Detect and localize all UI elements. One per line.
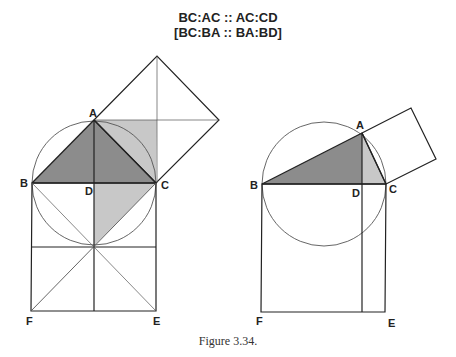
left-figure: A B C D E F [20,56,219,327]
left-label-b: B [20,177,28,189]
right-label-b: B [250,179,258,191]
left-label-a: A [89,107,97,119]
geometry-diagram: A B C D E F A B C D E F [0,0,456,357]
right-label-f: F [256,315,263,327]
right-label-d: D [352,187,360,199]
right-square-bcef [261,184,386,312]
right-label-c: C [389,183,397,195]
left-label-e: E [153,315,160,327]
left-label-d: D [85,185,93,197]
left-label-c: C [161,179,169,191]
figure-caption: Figure 3.34. [0,334,456,349]
right-figure: A B C D E F [250,108,436,329]
right-label-a: A [356,119,364,131]
right-label-e: E [388,317,395,329]
left-label-f: F [26,315,33,327]
